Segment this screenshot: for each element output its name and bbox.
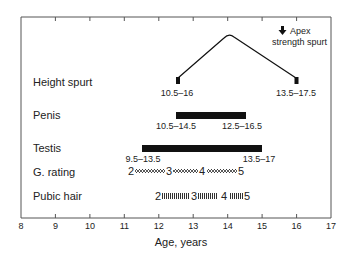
stage-label: 5 — [244, 190, 250, 202]
x-tick-label: 17 — [326, 221, 336, 231]
stage-label: 2 — [155, 190, 161, 202]
stage-label: 4 — [199, 165, 205, 177]
x-tick-label: 12 — [154, 221, 164, 231]
stage-label: 3 — [191, 190, 197, 202]
x-tick-label: 9 — [53, 221, 58, 231]
stage-segment — [198, 193, 218, 199]
penis-start-range: 10.5–14.5 — [156, 121, 196, 131]
row-label-pubic-hair: Pubic hair — [33, 190, 82, 202]
x-tick-label: 16 — [292, 221, 302, 231]
x-axis-label: Age, years — [155, 236, 208, 248]
x-axis-tick-labels: 8 9 10 11 12 13 14 15 16 17 — [18, 221, 336, 231]
row-label-g-rating: G. rating — [33, 166, 75, 178]
bottom-ticks — [55, 214, 296, 218]
testis-start-range: 9.5–13.5 — [125, 154, 160, 164]
x-tick-label: 14 — [223, 221, 233, 231]
stage-label: 3 — [166, 165, 172, 177]
penis-bar: 10.5–14.5 12.5–16.5 — [156, 112, 262, 131]
x-tick-label: 11 — [120, 221, 129, 231]
x-tick-label: 10 — [85, 221, 95, 231]
apex-strength-spurt-annotation: Apex strength spurt — [272, 26, 328, 47]
x-tick-label: 15 — [257, 221, 267, 231]
pubic-hair-stages: 2 3 4 5 — [155, 190, 250, 202]
testis-bar: 9.5–13.5 13.5–17 — [125, 145, 275, 164]
penis-end-range: 12.5–16.5 — [222, 121, 262, 131]
height-spurt-end-marker — [295, 77, 299, 84]
stage-segment — [162, 193, 190, 199]
g-rating-stages: 2 3 4 5 — [128, 165, 244, 177]
stage-label: 5 — [238, 165, 244, 177]
puberty-timeline-chart: 8 9 10 11 12 13 14 15 16 17 Age, years A… — [0, 0, 352, 256]
down-arrow-icon — [279, 26, 287, 35]
height-spurt-end-range: 13.5–17.5 — [276, 88, 316, 98]
height-spurt-start-range: 10.5–16 — [161, 88, 194, 98]
testis-end-range: 13.5–17 — [243, 154, 276, 164]
stage-segment — [135, 169, 165, 173]
x-tick-label: 8 — [18, 221, 23, 231]
stage-segment — [207, 169, 237, 173]
row-label-height-spurt: Height spurt — [33, 76, 92, 88]
top-ticks — [55, 17, 296, 21]
stage-segment — [173, 169, 198, 173]
stage-label: 4 — [221, 190, 227, 202]
row-label-testis: Testis — [33, 142, 62, 154]
annotation-line-1: Apex — [290, 26, 311, 36]
stage-segment — [229, 193, 243, 199]
x-tick-label: 13 — [188, 221, 198, 231]
stage-label: 2 — [128, 165, 134, 177]
annotation-line-2: strength spurt — [272, 37, 328, 47]
row-label-penis: Penis — [33, 109, 61, 121]
row-labels: Height spurt Penis Testis G. rating Pubi… — [33, 76, 92, 202]
height-spurt-start-marker — [176, 77, 180, 84]
